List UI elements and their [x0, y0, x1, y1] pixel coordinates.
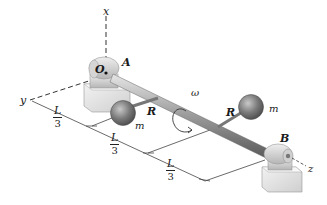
mass-2-label: m: [269, 104, 278, 114]
bearing-b-label: B: [280, 133, 289, 144]
arm-1-label: R: [147, 106, 156, 117]
dimension-label-1: L 3: [53, 105, 62, 129]
sphere-mass-1: [111, 101, 136, 126]
arm-2-label: R: [226, 107, 235, 118]
mass-2-assembly: [218, 95, 264, 128]
z-axis-label: z: [308, 164, 313, 174]
dimension-label-2: L 3: [110, 132, 119, 156]
sphere-mass-2: [239, 95, 264, 120]
origin-label: O: [95, 64, 105, 75]
y-axis-label: y: [20, 95, 26, 106]
bearing-a-label: A: [122, 57, 131, 68]
dimension-label-3: L 3: [166, 158, 175, 182]
omega-label: ω: [191, 88, 199, 98]
mass-1-label: m: [135, 121, 144, 131]
z-axis: [292, 158, 306, 166]
bearing-b: [262, 144, 302, 192]
shaft-diagram: x y z O A B ω R R m m L 3 L 3 L 3: [0, 0, 327, 205]
x-axis-label: x: [103, 6, 109, 17]
